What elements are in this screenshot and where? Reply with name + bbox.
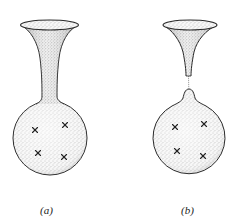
panel-a-flask — [13, 20, 87, 175]
panel-a-label: (a) — [40, 205, 53, 216]
panel-b-flask — [153, 20, 225, 174]
panel-b-label: (b) — [181, 205, 194, 216]
panel-a-funnel-rim — [21, 20, 79, 30]
figure-canvas — [0, 0, 234, 224]
panel-b-funnel-rim — [163, 20, 217, 30]
panel-a-bulb — [13, 101, 87, 175]
